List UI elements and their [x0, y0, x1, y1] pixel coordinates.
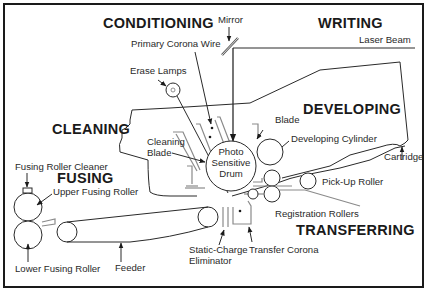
label-transfer-corona: Transfer Corona: [249, 244, 319, 255]
label-static-charge-2: Eliminator: [189, 255, 232, 266]
stage-conditioning: CONDITIONING: [103, 15, 214, 31]
diagram-frame: CONDITIONING WRITING CLEANING DEVELOPING…: [0, 0, 427, 291]
label-mirror: Mirror: [218, 14, 244, 25]
pick-up-roller: [300, 173, 316, 189]
stage-fusing: FUSING: [57, 170, 114, 186]
registration-roller-lower: [264, 186, 280, 202]
label-fusing-roller-cleaner: Fusing Roller Cleaner: [15, 161, 109, 172]
label-pick-up-roller: Pick-Up Roller: [322, 176, 384, 187]
stage-transferring: TRANSFERRING: [296, 222, 415, 238]
label-blade: Blade: [275, 114, 300, 125]
registration-roller-upper: [264, 170, 280, 186]
label-static-charge-1: Static-Charge: [189, 244, 248, 255]
label-drum-3: Drum: [219, 168, 242, 179]
label-cleaning-blade-2: Blade: [147, 147, 172, 158]
stage-cleaning: CLEANING: [52, 121, 130, 137]
label-developing-cylinder: Developing Cylinder: [291, 133, 378, 144]
label-upper-fusing-roller: Upper Fusing Roller: [53, 186, 139, 197]
label-feeder: Feeder: [115, 262, 146, 273]
stage-writing: WRITING: [318, 15, 383, 31]
label-lower-fusing-roller: Lower Fusing Roller: [15, 263, 101, 274]
label-primary-corona-wire: Primary Corona Wire: [131, 38, 221, 49]
label-laser-beam: Laser Beam: [359, 34, 411, 45]
printer-process-diagram: CONDITIONING WRITING CLEANING DEVELOPING…: [0, 0, 427, 291]
fusing-roller-cleaner: [23, 188, 32, 193]
label-drum-1: Photo: [218, 146, 243, 157]
label-registration-rollers: Registration Rollers: [275, 208, 359, 219]
label-cleaning-blade-1: Cleaning: [147, 136, 185, 147]
label-erase-lamps: Erase Lamps: [130, 65, 187, 76]
upper-fusing-roller: [14, 193, 42, 221]
feeder-belt: [67, 207, 208, 242]
label-cartridge: Cartridge: [384, 151, 423, 162]
erase-lamps-icon: [166, 83, 180, 97]
developing-cylinder: [257, 139, 283, 165]
stage-developing: DEVELOPING: [303, 101, 401, 117]
label-drum-2: Sensitive: [212, 157, 251, 168]
